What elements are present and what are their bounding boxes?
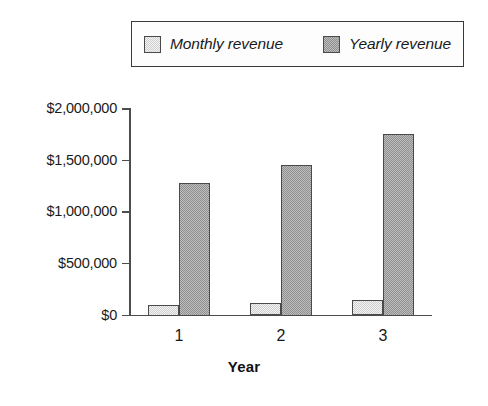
y-axis-tick: [122, 211, 130, 213]
bar-monthly-year-1[interactable]: [148, 305, 179, 315]
bar-monthly-year-3[interactable]: [352, 300, 383, 315]
y-axis-tick-label: $500,000: [58, 255, 117, 271]
bar-chart-figure: Monthly revenue Yearly revenue $2,000,00…: [0, 0, 488, 406]
x-axis-tick-label: 1: [175, 327, 184, 345]
x-axis-tick-label: 2: [277, 327, 286, 345]
y-axis-tick-label: $1,000,000: [46, 203, 117, 219]
y-axis-tick-label: $2,000,000: [46, 100, 117, 116]
bar-yearly-year-3[interactable]: [383, 134, 414, 316]
x-axis-title: Year: [0, 358, 488, 375]
y-axis-tick: [122, 315, 130, 317]
bar-yearly-year-2[interactable]: [281, 165, 312, 315]
x-axis-tick-label: 3: [379, 327, 388, 345]
bar-monthly-year-2[interactable]: [250, 303, 281, 315]
y-axis-tick: [122, 263, 130, 265]
plot-area: $2,000,000 $1,500,000 $1,000,000 $500,00…: [0, 0, 488, 406]
bar-yearly-year-1[interactable]: [179, 183, 210, 315]
y-axis-tick-label: $1,500,000: [46, 152, 117, 168]
y-axis-tick: [122, 160, 130, 162]
y-axis-tick-label: $0: [101, 307, 117, 323]
y-axis-tick: [122, 108, 130, 110]
